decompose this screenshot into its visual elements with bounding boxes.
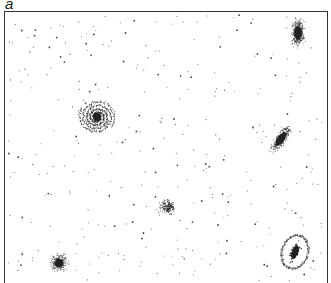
galaxy-elongated-top-right [291,17,306,48]
star-field [0,0,331,283]
galaxy-irregular-center [159,199,175,216]
galaxy-edge-on-tilted [269,126,293,154]
galaxy-elliptical-bottom-left [50,253,69,272]
galaxy-barred-spiral-bottom-right [280,234,310,271]
galaxy-spiral-face-on [78,101,115,133]
